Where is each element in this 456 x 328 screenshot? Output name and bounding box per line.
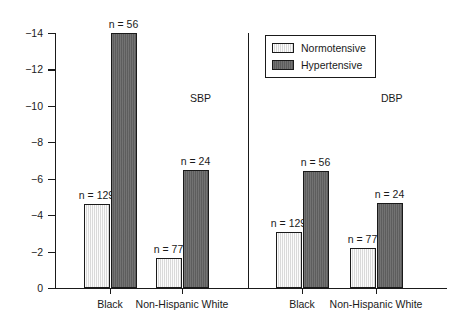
x-axis-tick-label: Non-Hispanic White	[330, 298, 423, 310]
y-axis-tick	[48, 252, 55, 253]
legend-item-normotensive: Normotensive	[272, 41, 366, 55]
y-axis-tick	[48, 106, 55, 107]
y-axis-tick-label: 0	[3, 283, 43, 294]
bar-value-label: n = 24	[181, 156, 211, 167]
bar-sbp-non-hispanic-white-hypertensive	[183, 170, 209, 288]
panel-label-sbp: SBP	[190, 93, 211, 104]
bar-sbp-black-hypertensive	[111, 33, 137, 288]
y-axis-tick-label: −14	[3, 28, 43, 39]
x-axis-tick-label: Black	[97, 298, 123, 310]
y-axis-tick	[48, 179, 55, 180]
y-axis-tick	[48, 33, 55, 34]
bar-value-label: n = 129	[79, 190, 114, 201]
legend-label-hypertensive: Hypertensive	[301, 60, 362, 71]
legend-item-hypertensive: Hypertensive	[272, 58, 366, 72]
bar-value-label: n = 56	[301, 157, 331, 168]
panel-divider-line	[248, 33, 249, 288]
bar-chart-figure: 0−2−4−6−8−10−12−14 BlackNon-Hispanic Whi…	[0, 0, 456, 328]
x-axis-tick-label: Non-Hispanic White	[136, 298, 229, 310]
y-axis-tick	[48, 69, 55, 70]
y-axis-tick-label: −12	[3, 64, 43, 75]
chart-legend: Normotensive Hypertensive	[265, 35, 376, 78]
bar-value-label: n = 77	[154, 244, 184, 255]
bar-dbp-non-hispanic-white-hypertensive	[377, 203, 403, 288]
y-axis-tick-label: −8	[3, 137, 43, 148]
bar-sbp-non-hispanic-white-normotensive	[156, 258, 182, 288]
y-axis-tick	[48, 142, 55, 143]
x-axis-tick	[110, 288, 111, 294]
bar-value-label: n = 77	[348, 234, 378, 245]
legend-label-normotensive: Normotensive	[301, 43, 366, 54]
legend-swatch-normotensive	[272, 43, 294, 53]
bar-value-label: n = 129	[271, 218, 306, 229]
x-axis-tick-label: Black	[289, 298, 315, 310]
y-axis-tick-label: −4	[3, 210, 43, 221]
bar-dbp-black-normotensive	[276, 232, 302, 288]
bar-dbp-black-hypertensive	[303, 171, 329, 288]
x-axis-tick	[302, 288, 303, 294]
bar-sbp-black-normotensive	[84, 204, 110, 288]
y-axis-tick	[48, 288, 55, 289]
y-axis-tick	[48, 215, 55, 216]
y-axis-tick-label: −6	[3, 174, 43, 185]
bar-dbp-non-hispanic-white-normotensive	[350, 248, 376, 288]
x-axis-tick	[376, 288, 377, 294]
panel-label-dbp: DBP	[381, 93, 403, 104]
y-axis-line	[55, 33, 56, 289]
bar-value-label: n = 24	[375, 189, 405, 200]
y-axis-tick-label: −2	[3, 247, 43, 258]
legend-swatch-hypertensive	[272, 60, 294, 70]
x-axis-tick	[182, 288, 183, 294]
bar-value-label: n = 56	[109, 19, 139, 30]
y-axis-tick-label: −10	[3, 101, 43, 112]
